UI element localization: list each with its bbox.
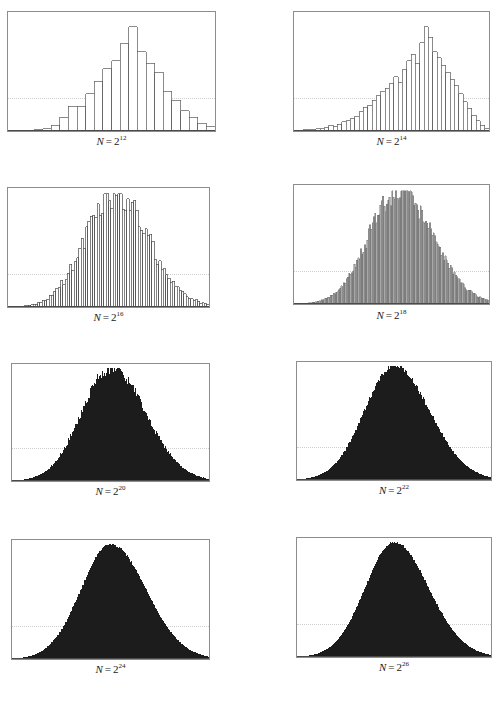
baseline-axis	[297, 656, 491, 657]
histogram-panel-2-26: N=226	[0, 0, 504, 708]
caption-equals: =	[386, 661, 396, 673]
plot-area	[297, 538, 491, 657]
panel-frame	[296, 537, 492, 658]
histogram-panel-grid: N=212N=214N=216N=218N=220N=222N=224N=226	[0, 0, 504, 708]
histogram-silhouette	[297, 542, 491, 657]
panel-caption: N=226	[296, 660, 492, 673]
caption-exponent: 26	[402, 660, 409, 668]
